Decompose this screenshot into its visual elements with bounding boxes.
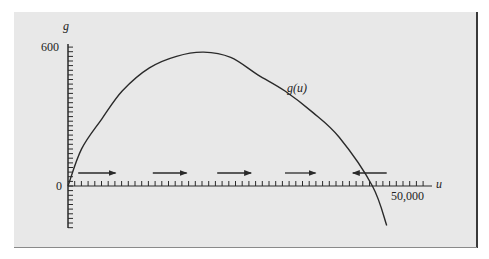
x-tick-label-50000: 50,000 (391, 190, 424, 202)
axes (68, 44, 432, 228)
y-tick-label-600: 600 (41, 41, 59, 53)
x-axis-label: u (436, 178, 442, 190)
curve-label: g(u) (287, 82, 307, 94)
y-axis-label: g (63, 20, 69, 32)
chart-plot (0, 0, 489, 259)
axis-ticks (68, 47, 423, 228)
origin-label: 0 (56, 180, 62, 192)
curve-g-of-u (68, 52, 387, 225)
